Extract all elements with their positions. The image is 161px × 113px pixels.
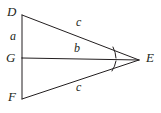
angle-mark-DEG-icon <box>113 47 116 58</box>
side-label-c-upper: c <box>76 16 81 28</box>
side-label-c-lower: c <box>76 81 81 93</box>
side-label-a: a <box>10 30 16 42</box>
angle-mark-GEF-icon <box>112 61 116 71</box>
vertex-label-D: D <box>7 5 16 18</box>
vertex-label-E: E <box>146 51 154 64</box>
geometry-figure: D G F E a c b c <box>0 0 161 113</box>
side-label-b: b <box>74 42 80 54</box>
vertex-label-G: G <box>6 51 15 64</box>
segment-GE <box>22 58 139 60</box>
vertex-label-F: F <box>8 90 16 103</box>
